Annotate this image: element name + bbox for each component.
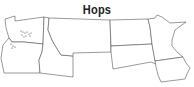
state-south-dakota xyxy=(111,44,156,69)
state-washington xyxy=(5,16,44,44)
state-north-dakota xyxy=(110,19,152,46)
state-iowa xyxy=(155,57,190,82)
state-minnesota xyxy=(148,15,186,61)
map-canvas xyxy=(0,0,194,87)
state-oregon xyxy=(1,38,43,73)
